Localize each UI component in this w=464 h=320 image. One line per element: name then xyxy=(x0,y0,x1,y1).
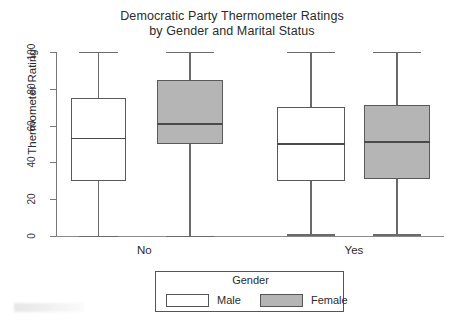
scan-artifact xyxy=(14,303,84,312)
whisker-cap-lower xyxy=(166,236,214,237)
whisker-upper xyxy=(396,52,397,105)
y-tick-label: 40 xyxy=(18,152,46,172)
chart-subtitle: by Gender and Marital Status xyxy=(0,24,464,39)
legend-swatch-male xyxy=(166,294,209,307)
median-line xyxy=(364,141,430,143)
y-tick-label: 80 xyxy=(18,79,46,99)
plot-area xyxy=(56,52,440,236)
legend-label-male: Male xyxy=(217,294,241,306)
y-tick-label: 100 xyxy=(18,42,46,62)
y-tick-label: 20 xyxy=(18,189,46,209)
y-tick xyxy=(50,236,56,237)
legend: Gender Male Female xyxy=(155,271,344,312)
x-tick-label: Yes xyxy=(314,244,394,256)
legend-label-female: Female xyxy=(311,294,348,306)
chart-figure: Democratic Party Thermometer Ratings by … xyxy=(0,0,464,320)
legend-title: Gender xyxy=(156,274,345,286)
y-tick-label: 0 xyxy=(18,226,46,246)
chart-title-block: Democratic Party Thermometer Ratings by … xyxy=(0,9,464,39)
chart-title: Democratic Party Thermometer Ratings xyxy=(0,9,464,24)
y-tick-label: 60 xyxy=(18,116,46,136)
whisker-lower xyxy=(396,179,397,234)
x-tick-label: No xyxy=(104,244,184,256)
boxplot-female-yes xyxy=(56,52,440,236)
whisker-cap-upper xyxy=(373,52,421,53)
legend-swatch-female xyxy=(260,294,303,307)
legend-entries: Male Female xyxy=(156,292,345,310)
whisker-cap-lower xyxy=(373,234,421,235)
whisker-cap-lower xyxy=(79,236,119,237)
